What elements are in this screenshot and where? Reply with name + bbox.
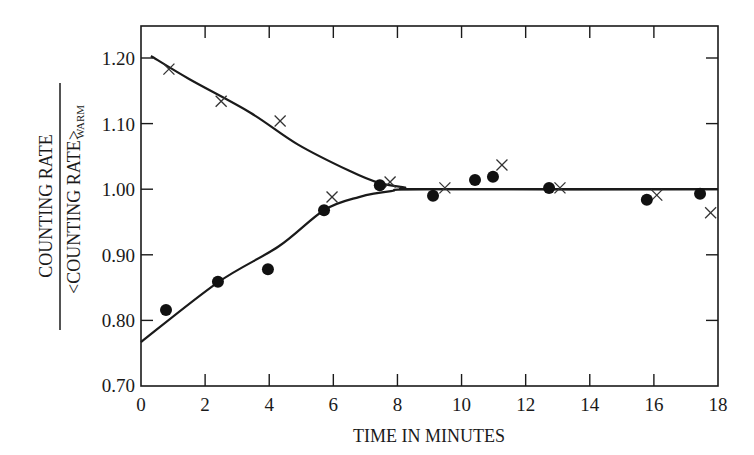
upper-fit-curve <box>151 56 718 189</box>
dot-marker <box>374 179 386 191</box>
dot-marker <box>694 188 706 200</box>
x-tick-label: 18 <box>709 394 728 415</box>
dot-marker <box>212 276 224 288</box>
dot-marker <box>427 190 439 202</box>
dot-marker <box>641 194 653 206</box>
y-tick-label: 0.70 <box>102 375 135 396</box>
y-axis-title-subscript: WARM <box>74 105 86 139</box>
plot-border <box>141 26 718 386</box>
x-tick-label: 10 <box>452 394 471 415</box>
x-tick-label: 12 <box>516 394 535 415</box>
cross-marker <box>496 159 507 170</box>
cross-marker <box>705 207 716 218</box>
dot-marker <box>262 263 274 275</box>
dot-marker <box>487 171 499 183</box>
plot-frame <box>141 26 718 386</box>
y-tick-label: 0.80 <box>102 310 135 331</box>
x-tick-label: 0 <box>136 394 146 415</box>
dot-marker <box>543 182 555 194</box>
x-axis-title: TIME IN MINUTES <box>353 426 505 446</box>
x-tick-label: 4 <box>264 394 274 415</box>
dot-marker <box>318 204 330 216</box>
chart: 024681012141618 0.700.800.901.001.101.20… <box>0 0 754 455</box>
x-tick-label: 2 <box>200 394 210 415</box>
y-tick-label: 1.00 <box>102 179 135 200</box>
cross-marker <box>651 190 662 201</box>
y-axis-title-numerator: COUNTING RATE <box>36 134 56 278</box>
x-tick-label: 16 <box>644 394 663 415</box>
y-axis-ticks: 0.700.800.901.001.101.20 <box>102 48 718 396</box>
lower-fit-curve <box>141 189 718 342</box>
y-tick-label: 1.10 <box>102 114 135 135</box>
y-tick-label: 0.90 <box>102 245 135 266</box>
dot-marker <box>160 304 172 316</box>
x-tick-label: 6 <box>329 394 339 415</box>
dot-marker <box>469 174 481 186</box>
y-axis-title: COUNTING RATE <COUNTING RATE> WARM <box>36 83 86 330</box>
x-tick-label: 8 <box>393 394 403 415</box>
x-axis-ticks: 024681012141618 <box>136 26 727 415</box>
x-tick-label: 14 <box>580 394 600 415</box>
cross-marker <box>275 115 286 126</box>
cross-marker <box>327 192 338 203</box>
y-tick-label: 1.20 <box>102 48 135 69</box>
y-axis-title-denominator: <COUNTING RATE> <box>64 130 84 294</box>
cross-marker <box>554 182 565 193</box>
cross-marker <box>439 182 450 193</box>
